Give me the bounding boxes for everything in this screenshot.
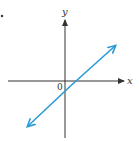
origin-label: 0	[57, 82, 63, 92]
y-axis-label: y	[61, 6, 68, 17]
bullet-dot	[1, 15, 3, 17]
line-upper-segment	[71, 46, 115, 86]
coordinate-diagram: x y 0	[0, 0, 139, 141]
x-axis-label: x	[127, 75, 133, 86]
